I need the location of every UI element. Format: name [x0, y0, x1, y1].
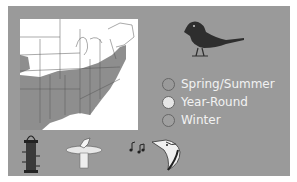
legend-item-winter: Winter [162, 111, 275, 129]
legend-label: Year-Round [181, 95, 248, 109]
legend-label: Spring/Summer [181, 77, 275, 91]
song-notes-icon [128, 140, 148, 154]
range-map [20, 19, 138, 130]
legend-label: Winter [181, 113, 221, 127]
songbird-silhouette-icon [182, 18, 246, 58]
legend-swatch-year-round [162, 96, 175, 109]
bird-head-icon [150, 136, 184, 172]
tube-feeder-icon [20, 132, 42, 174]
legend: Spring/Summer Year-Round Winter [162, 75, 275, 129]
legend-swatch-spring-summer [162, 78, 175, 91]
birdbath-icon [64, 136, 104, 170]
range-map-shape [20, 19, 138, 130]
legend-swatch-winter [162, 114, 175, 127]
legend-item-spring-summer: Spring/Summer [162, 75, 275, 93]
legend-item-year-round: Year-Round [162, 93, 275, 111]
